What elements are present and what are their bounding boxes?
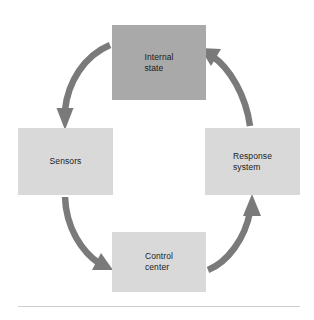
- arrow-control-center-to-response-system: [208, 194, 261, 270]
- node-internal-state: Internal state: [112, 25, 206, 100]
- node-internal-state-label: Internal state: [144, 52, 173, 74]
- node-sensors-label: Sensors: [50, 156, 82, 167]
- cycle-diagram: Internal state Sensors Response system C…: [0, 0, 314, 320]
- node-control-center-label: Control center: [145, 251, 173, 273]
- node-control-center: Control center: [112, 232, 206, 292]
- node-sensors: Sensors: [18, 128, 113, 195]
- node-response-system: Response system: [205, 128, 300, 195]
- footer-divider: [18, 306, 300, 307]
- arrow-response-system-to-internal-state: [200, 48, 250, 126]
- arrow-sensors-to-control-center: [65, 197, 113, 270]
- node-response-system-label: Response system: [233, 151, 272, 173]
- arrow-internal-state-to-sensors: [57, 45, 111, 130]
